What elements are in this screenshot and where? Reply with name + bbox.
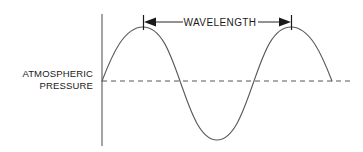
- wavelength-diagram-figure: WAVELENGTH ATMOSPHERIC PRESSURE: [0, 0, 363, 152]
- arrow-right-icon: [279, 18, 291, 27]
- sound-pressure-wave-curve: [102, 27, 332, 140]
- arrow-left-icon: [144, 18, 156, 27]
- atmospheric-pressure-label-line2: PRESSURE: [40, 80, 93, 91]
- atmospheric-pressure-label-line1: ATMOSPHERIC: [22, 68, 93, 79]
- wavelength-label: WAVELENGTH: [184, 17, 257, 28]
- diagram-canvas: WAVELENGTH ATMOSPHERIC PRESSURE: [0, 0, 363, 152]
